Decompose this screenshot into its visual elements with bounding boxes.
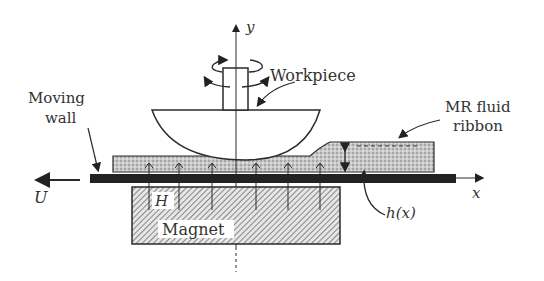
y-axis-label: y xyxy=(245,18,255,36)
velocity-label: U xyxy=(34,188,48,207)
workpiece-label: Workpiece xyxy=(270,66,356,85)
diagram-canvas: y Magnet H x U h(x) xyxy=(0,0,544,281)
moving-wall xyxy=(90,174,456,183)
mr-fluid-label-line2: ribbon xyxy=(453,117,503,135)
moving-wall-label-line1: Moving xyxy=(28,89,85,107)
magnet: Magnet H xyxy=(132,187,340,244)
gap-height-label: h(x) xyxy=(386,204,416,222)
mr-fluid-label-line1: MR fluid xyxy=(445,98,511,116)
field-label: H xyxy=(154,192,169,210)
magnet-label: Magnet xyxy=(162,220,225,239)
velocity-arrow: U xyxy=(34,180,80,207)
moving-wall-label-line2: wall xyxy=(45,109,77,127)
x-axis-label: x xyxy=(472,184,481,202)
